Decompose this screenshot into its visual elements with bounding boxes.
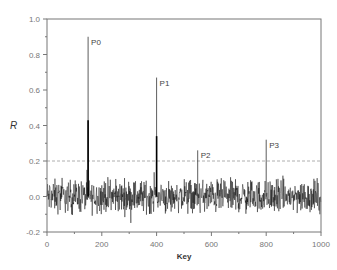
x-tick-label: 400: [150, 240, 164, 249]
x-tick-label: 0: [45, 240, 50, 249]
y-tick-label: 0.6: [29, 86, 41, 95]
x-tick-label: 600: [205, 240, 219, 249]
peak-label-p2: P2: [201, 151, 211, 160]
y-tick-label: 0.4: [29, 122, 41, 131]
y-axis-title: R: [10, 120, 17, 131]
x-tick-label: 200: [95, 240, 109, 249]
y-tick-label: -0.2: [26, 228, 40, 237]
peak-label-p1: P1: [160, 79, 170, 88]
correlation-chart: P0P1P2P3 -0.20.00.20.40.60.81.0020040060…: [0, 0, 337, 270]
y-tick-label: 0.2: [29, 157, 41, 166]
plot-area: P0P1P2P3: [47, 37, 321, 223]
peak-label-p0: P0: [91, 38, 101, 47]
y-tick-label: 1.0: [29, 15, 41, 24]
x-axis-title: Key: [177, 252, 192, 261]
x-tick-label: 800: [260, 240, 274, 249]
y-tick-label: 0.8: [29, 51, 41, 60]
x-tick-label: 1000: [312, 240, 330, 249]
peak-label-p3: P3: [269, 141, 279, 150]
y-tick-label: 0.0: [29, 193, 41, 202]
